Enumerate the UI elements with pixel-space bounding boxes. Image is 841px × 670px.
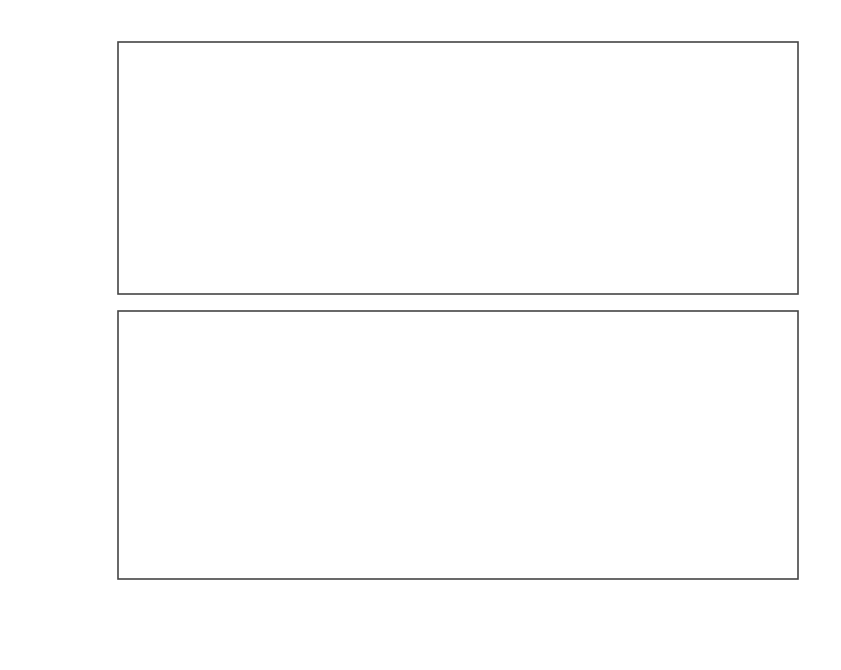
top-panel: [118, 42, 798, 294]
bottom-panel: [118, 311, 798, 579]
bottom-plot-frame: [118, 311, 798, 579]
top-plot-frame: [118, 42, 798, 294]
band-diagram-figure: [0, 0, 841, 670]
